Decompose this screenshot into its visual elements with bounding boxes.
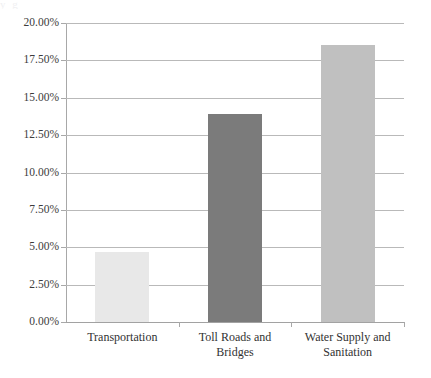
y-axis-tick-mark (61, 173, 66, 174)
x-axis-separator-tick (179, 322, 180, 327)
y-axis-tick-mark (61, 23, 66, 24)
x-axis-label-3: Water Supply andSanitation (291, 330, 404, 360)
x-axis-label-2: Toll Roads andBridges (179, 330, 292, 360)
y-axis-tick-label: 0.00% (1, 316, 59, 328)
x-axis-label-line: Water Supply and (291, 330, 404, 345)
x-axis-label-line: Transportation (66, 330, 179, 345)
y-axis-tick-mark (61, 322, 66, 323)
x-axis-separator-tick (291, 322, 292, 327)
y-axis-tick-mark (61, 247, 66, 248)
bar-chart-figure: y g 0.00%2.50%5.00%7.50%10.00%12.50%15.0… (0, 0, 431, 378)
y-axis-tick-label: 7.50% (1, 204, 59, 216)
y-axis-tick-label: 12.50% (1, 129, 59, 141)
y-axis-tick-mark (61, 285, 66, 286)
x-axis-separator-tick (404, 322, 405, 327)
y-axis-tick-label: 10.00% (1, 167, 59, 179)
y-axis-tick-label: 2.50% (1, 279, 59, 291)
bar-3 (321, 45, 375, 322)
x-axis-label-1: Transportation (66, 330, 179, 345)
bar-2 (208, 114, 262, 322)
bar-1 (95, 252, 149, 322)
x-axis-label-line: Toll Roads and (179, 330, 292, 345)
y-axis-tick-mark (61, 60, 66, 61)
x-axis-label-line: Bridges (179, 345, 292, 360)
x-axis-label-line: Sanitation (291, 345, 404, 360)
y-axis-tick-mark (61, 135, 66, 136)
gridline-20.00 (66, 23, 404, 24)
y-axis-tick-mark (61, 210, 66, 211)
x-axis-line (66, 322, 404, 323)
y-axis-tick-label: 5.00% (1, 241, 59, 253)
plot-area (66, 23, 404, 322)
y-axis-tick-label: 20.00% (1, 17, 59, 29)
y-axis-tick-mark (61, 98, 66, 99)
y-axis-tick-label: 15.00% (1, 92, 59, 104)
y-axis-tick-labels: 0.00%2.50%5.00%7.50%10.00%12.50%15.00%17… (0, 0, 59, 378)
y-axis-tick-label: 17.50% (1, 54, 59, 66)
scan-artifact-text: y g (0, 0, 431, 9)
